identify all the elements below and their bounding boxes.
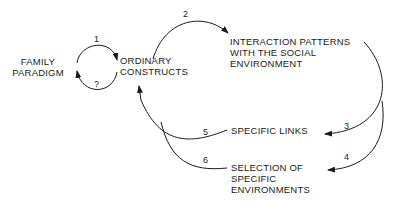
edge-label-question: ? — [94, 79, 99, 89]
edge-label-6: 6 — [203, 155, 208, 165]
arrow-1 — [77, 45, 117, 63]
arrow-5 — [139, 86, 227, 139]
edge-label-2: 2 — [183, 9, 188, 19]
edge-label-4: 4 — [344, 152, 349, 162]
edge-label-1: 1 — [94, 34, 99, 44]
arrow-6 — [161, 122, 227, 169]
arrow-2 — [153, 21, 228, 59]
node-selection-environments: SELECTION OF SPECIFIC ENVIRONMENTS — [231, 162, 310, 195]
node-family-paradigm: FAMILY PARADIGM — [8, 56, 68, 78]
edge-label-5: 5 — [203, 127, 208, 137]
node-text: ENVIRONMENT — [230, 58, 350, 69]
node-specific-links: SPECIFIC LINKS — [231, 125, 308, 136]
node-interaction-patterns: INTERACTION PATTERNS WITH THE SOCIAL ENV… — [230, 36, 350, 69]
node-text: WITH THE SOCIAL — [230, 47, 350, 58]
node-text: ORDINARY — [120, 55, 188, 66]
diagram-arrows — [0, 0, 393, 202]
edge-label-3: 3 — [344, 121, 349, 131]
node-text: FAMILY — [8, 56, 68, 67]
node-text: CONSTRUCTS — [120, 66, 188, 77]
node-text: SPECIFIC LINKS — [231, 125, 308, 136]
node-text: INTERACTION PATTERNS — [230, 36, 350, 47]
node-ordinary-constructs: ORDINARY CONSTRUCTS — [120, 55, 188, 77]
node-text: ENVIRONMENTS — [231, 184, 310, 195]
node-text: SELECTION OF — [231, 162, 310, 173]
node-text: PARADIGM — [8, 67, 68, 78]
node-text: SPECIFIC — [231, 173, 310, 184]
